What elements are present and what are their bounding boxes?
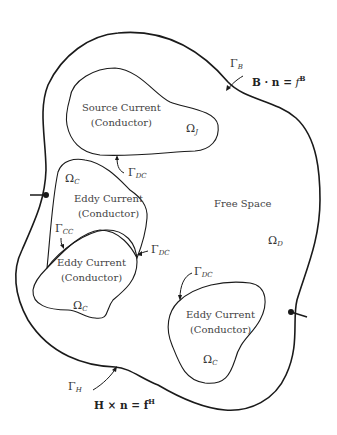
omega-c-2-label: ΩC <box>73 299 87 313</box>
gamma-dc-1-label: ΓDC <box>128 166 147 180</box>
h-eq-main: H × n = f <box>94 399 148 411</box>
omega-c-1-symbol: Ω <box>65 172 74 185</box>
omega-c-1-label: ΩC <box>65 172 79 186</box>
free-space-label: Free Space <box>214 196 271 211</box>
gamma-dc-3-arrow <box>180 273 192 298</box>
eddy-region-3-label: Eddy Current (Conductor) <box>186 307 255 337</box>
gamma-dc-1-sub: DC <box>136 172 147 180</box>
gamma-dc-2-sub: DC <box>159 249 170 257</box>
gamma-dc-3-symbol: Γ <box>194 265 202 278</box>
gamma-h-symbol: Γ <box>68 380 76 393</box>
gamma-b-label: ΓB <box>230 57 243 71</box>
eddy-region-3-line2: (Conductor) <box>186 322 255 337</box>
boundary-h-equation: H × n = fH <box>94 397 155 411</box>
omega-j-sub: J <box>195 128 198 136</box>
gamma-h-sub: H <box>76 386 82 394</box>
omega-d-symbol: Ω <box>268 234 277 247</box>
left-boundary-junction <box>43 192 49 198</box>
omega-c-3-sub: C <box>212 359 217 367</box>
gamma-dc-1-symbol: Γ <box>128 166 136 179</box>
right-boundary-junction <box>288 309 294 315</box>
source-region-line2: (Conductor) <box>82 115 161 130</box>
omega-c-1-sub: C <box>74 178 79 186</box>
omega-c-3-label: ΩC <box>203 353 217 367</box>
eddy-region-1-line1: Eddy Current <box>74 191 143 206</box>
diagram-canvas: Source Current (Conductor) ΩJ ΩC Eddy Cu… <box>0 0 337 435</box>
eddy-region-2-label: Eddy Current (Conductor) <box>57 255 126 285</box>
omega-d-label: ΩD <box>268 234 283 248</box>
gamma-h-label: ΓH <box>68 380 82 394</box>
b-eq-sup: B <box>299 74 305 83</box>
gamma-dc-3-sub: DC <box>202 271 213 279</box>
omega-c-2-sub: C <box>82 305 87 313</box>
eddy-region-1-line2: (Conductor) <box>74 206 143 221</box>
gamma-b-arrow <box>228 76 243 89</box>
gamma-h-arrow <box>93 368 116 390</box>
boundary-b-equation: B · n = fB <box>252 74 305 88</box>
eddy-region-1-label: Eddy Current (Conductor) <box>74 191 143 221</box>
source-region-label: Source Current (Conductor) <box>82 100 161 130</box>
gamma-dc-3-label: ΓDC <box>194 265 213 279</box>
b-eq-left: B · n = <box>252 76 296 88</box>
h-eq-sup: H <box>148 397 155 406</box>
gamma-dc-2-label: ΓDC <box>151 243 170 257</box>
gamma-b-symbol: Γ <box>230 57 238 70</box>
gamma-b-sub: B <box>238 63 243 71</box>
source-region-line1: Source Current <box>82 100 161 115</box>
gamma-cc-label: ΓCC <box>55 222 73 236</box>
omega-d-sub: D <box>277 240 283 248</box>
eddy-region-2-line2: (Conductor) <box>57 270 126 285</box>
gamma-cc-sub: CC <box>63 228 74 236</box>
gamma-dc-3-arrowhead <box>178 295 182 301</box>
eddy-region-2-line1: Eddy Current <box>57 255 126 270</box>
diagram-graphics <box>0 0 337 435</box>
omega-j-label: ΩJ <box>186 122 198 136</box>
gamma-dc-2-symbol: Γ <box>151 243 159 256</box>
eddy-region-3-line1: Eddy Current <box>186 307 255 322</box>
omega-j-symbol: Ω <box>186 122 195 135</box>
gamma-cc-symbol: Γ <box>55 222 63 235</box>
omega-c-3-symbol: Ω <box>203 353 212 366</box>
gamma-cc-arrowhead <box>60 244 64 249</box>
omega-c-2-symbol: Ω <box>73 299 82 312</box>
